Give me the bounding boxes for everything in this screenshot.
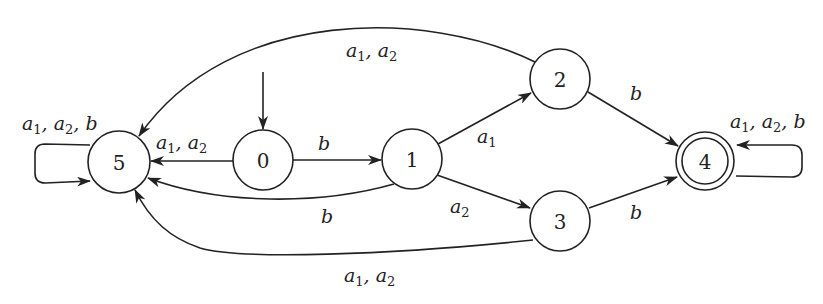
state-2-label: 2 <box>554 68 567 92</box>
state-4-label: 4 <box>699 150 712 174</box>
edge-2-to-5 <box>139 28 535 136</box>
label-edge-2-to-5: a1, a2 <box>346 39 397 64</box>
edge-5-loop <box>35 144 90 183</box>
label-edge-0-to-1: b <box>318 132 330 154</box>
state-2: 2 <box>530 49 590 109</box>
edge-3-to-5 <box>135 190 533 255</box>
label-edge-5-loop: a1, a2, b <box>22 112 98 137</box>
label-edge-3-to-4: b <box>630 201 642 223</box>
label-edge-1-to-5: b <box>321 205 333 227</box>
state-5: 5 <box>88 131 150 193</box>
state-4-accepting: 4 <box>676 132 734 190</box>
state-3: 3 <box>530 191 590 251</box>
label-edge-2-to-4: b <box>630 82 642 104</box>
label-edge-3-to-5: a1, a2 <box>344 264 395 289</box>
state-5-label: 5 <box>113 151 126 175</box>
edge-4-loop <box>736 145 802 177</box>
state-1-label: 1 <box>406 148 419 172</box>
automaton-diagram: 5 0 1 2 3 4 a1, a2, b a1, a2 b a1 a2 b a… <box>0 0 823 304</box>
label-edge-4-loop: a1, a2, b <box>730 110 806 135</box>
label-edge-1-to-2: a1 <box>477 125 497 150</box>
label-edge-1-to-3: a2 <box>450 195 470 220</box>
state-3-label: 3 <box>554 210 567 234</box>
state-1: 1 <box>382 129 442 189</box>
state-0: 0 <box>233 130 293 190</box>
label-edge-0-to-5: a1, a2 <box>156 131 207 156</box>
state-0-label: 0 <box>257 149 270 173</box>
